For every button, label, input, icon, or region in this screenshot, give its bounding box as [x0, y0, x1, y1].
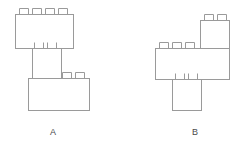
brick-b-top [201, 15, 230, 49]
brick-b-bottom [173, 80, 202, 111]
brick-a-bottom-body [29, 79, 90, 111]
structure-a-label: A [50, 127, 56, 137]
structure-b [156, 15, 230, 111]
brick-a-top-top-stud-4 [59, 9, 68, 15]
brick-a-top-body [16, 15, 74, 49]
brick-a-bottom-top-stud-2 [76, 73, 85, 79]
brick-b-top-body [201, 21, 230, 49]
brick-b-top-top-stud-1 [205, 15, 214, 21]
brick-a-middle-body [33, 49, 62, 79]
brick-a-top-top-stud-3 [46, 9, 55, 15]
brick-a-bottom-top-stud-1 [63, 73, 72, 79]
brick-shapes-layer [16, 9, 230, 111]
brick-b-top-top-stud-2 [218, 15, 227, 21]
structure-b-label: B [192, 127, 198, 137]
brick-b-middle-top-stud-1 [160, 43, 169, 49]
brick-a-bottom [29, 73, 90, 111]
brick-a-top [16, 9, 74, 49]
brick-b-middle-bottom-stud-1 [176, 74, 185, 80]
brick-b-bottom-body [173, 80, 202, 111]
brick-a-top-bottom-stud-1 [35, 43, 44, 49]
brick-a-top-top-stud-2 [33, 9, 42, 15]
brick-figure-canvas [0, 0, 243, 153]
brick-a-top-top-stud-1 [20, 9, 29, 15]
structure-a [16, 9, 90, 111]
brick-b-middle-top-stud-2 [173, 43, 182, 49]
brick-b-middle-bottom-stud-2 [189, 74, 198, 80]
brick-a-top-bottom-stud-2 [48, 43, 57, 49]
brick-a-middle [33, 49, 62, 79]
brick-b-middle-top-stud-3 [186, 43, 195, 49]
brick-b-middle [156, 43, 230, 80]
